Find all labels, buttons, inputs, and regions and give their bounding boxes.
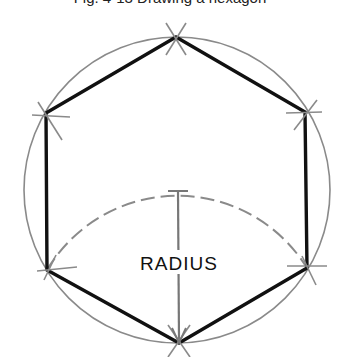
diagram-canvas: RADIUS	[0, 0, 340, 357]
hexagon-construction-figure: Fig. 4-13 Drawing a hexagon	[0, 0, 340, 357]
radius-label: RADIUS	[140, 253, 218, 274]
